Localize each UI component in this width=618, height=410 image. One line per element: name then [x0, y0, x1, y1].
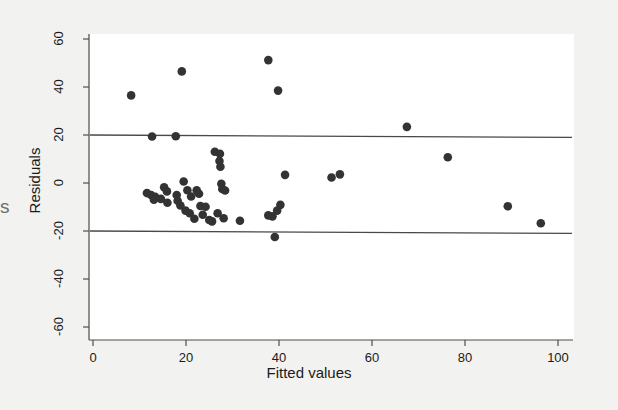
y-tick-label: -60: [51, 307, 66, 347]
x-tick-label: 20: [166, 350, 206, 365]
x-tick-label: 60: [352, 350, 392, 365]
data-point: [163, 187, 172, 196]
y-tick-label: 20: [51, 115, 66, 155]
y-tick-label: 0: [51, 163, 66, 203]
data-point: [327, 173, 336, 182]
x-tick-label: 40: [259, 350, 299, 365]
x-tick-label: 0: [73, 350, 113, 365]
data-point: [195, 190, 204, 199]
data-point: [127, 91, 136, 100]
data-point: [221, 186, 230, 195]
data-point: [503, 202, 512, 211]
data-point: [236, 216, 245, 225]
data-point: [444, 153, 453, 162]
data-point: [190, 214, 199, 223]
data-point: [208, 217, 217, 226]
data-point: [219, 214, 228, 223]
data-point: [178, 67, 187, 76]
data-point: [171, 132, 180, 141]
residual-plot-figure: s Residuals Fitted values -60-40-2002040…: [0, 0, 618, 410]
data-point: [216, 162, 225, 171]
y-tick-label: -20: [51, 211, 66, 251]
data-point: [281, 171, 290, 180]
y-tick-label: -40: [51, 259, 66, 299]
data-point: [273, 206, 282, 215]
y-tick-label: 60: [51, 19, 66, 59]
data-point: [537, 219, 546, 228]
data-point: [403, 123, 412, 132]
scatter-plot-canvas: [0, 0, 618, 410]
y-tick-label: 40: [51, 67, 66, 107]
data-point: [264, 56, 273, 65]
data-point: [148, 132, 157, 141]
x-tick-label: 80: [445, 350, 485, 365]
data-point: [201, 202, 210, 211]
data-point: [163, 198, 172, 207]
data-point: [274, 86, 283, 95]
x-tick-label: 100: [538, 350, 578, 365]
data-point: [336, 170, 345, 179]
data-point: [271, 233, 280, 242]
data-point: [179, 177, 188, 186]
